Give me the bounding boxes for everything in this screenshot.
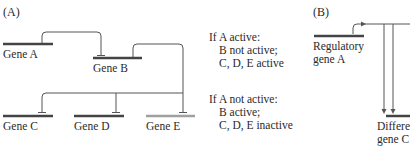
regulatory-gene-line: Regulatory — [313, 40, 364, 53]
condition-a-active: If A active: B not active; C, D, E activ… — [209, 31, 284, 70]
gene-b-label: Gene B — [93, 62, 128, 74]
condition-line: C, D, E inactive — [209, 119, 293, 132]
repression-b-bus — [133, 44, 183, 112]
arrowhead-down-icon — [382, 109, 387, 114]
regulatory-gene-line: gene A — [313, 53, 364, 66]
gene-e-label: Gene E — [146, 120, 180, 132]
arrowhead-right-icon — [361, 22, 366, 27]
target-gene-line: Differe — [377, 120, 410, 133]
arrowhead-down-icon — [391, 109, 396, 114]
condition-header: If A active: — [209, 31, 284, 44]
condition-header: If A not active: — [209, 93, 293, 106]
gene-c-label: Gene C — [3, 120, 38, 132]
condition-line: B active; — [209, 106, 293, 119]
panel-a-label: (A) — [3, 5, 20, 20]
condition-a-not-active: If A not active: B active; C, D, E inact… — [209, 93, 293, 132]
target-gene-line: gene C — [377, 133, 410, 146]
panel-b-label: (B) — [313, 5, 329, 20]
target-gene-label: Differe gene C — [377, 120, 410, 146]
gene-a-label: Gene A — [3, 48, 38, 60]
regulatory-gene-a-label: Regulatory gene A — [313, 40, 364, 66]
condition-line: C, D, E active — [209, 57, 284, 70]
diagram-lines — [0, 0, 410, 148]
condition-line: B not active; — [209, 44, 284, 57]
gene-d-label: Gene D — [74, 120, 109, 132]
